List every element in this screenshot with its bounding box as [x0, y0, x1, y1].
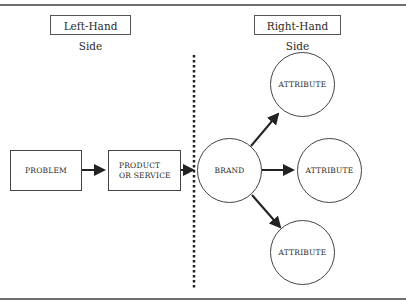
product-or-service-label: PRODUCT OR SERVICE — [119, 161, 171, 181]
problem-label: PROBLEM — [25, 166, 67, 175]
attribute-node-bottom: ATTRIBUTE — [270, 220, 335, 285]
arrow-brand-to-attribute-top — [251, 114, 278, 146]
brand-label: BRAND — [214, 166, 244, 175]
attribute-node-right: ATTRIBUTE — [297, 138, 362, 203]
arrow-brand-to-attribute-bottom — [252, 195, 280, 227]
problem-node: PROBLEM — [10, 150, 82, 191]
product-or-service-node: PRODUCT OR SERVICE — [108, 150, 181, 191]
attribute-node-top: ATTRIBUTE — [270, 52, 335, 117]
attribute-label-bottom: ATTRIBUTE — [279, 248, 327, 257]
brand-node: BRAND — [197, 138, 262, 203]
attribute-label-top: ATTRIBUTE — [279, 80, 327, 89]
attribute-label-right: ATTRIBUTE — [306, 166, 354, 175]
